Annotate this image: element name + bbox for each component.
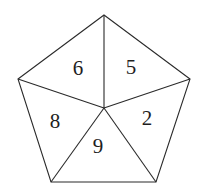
region-label-top-left: 6 (73, 56, 84, 80)
spoke-left (18, 79, 104, 108)
region-label-bottom: 9 (93, 134, 104, 158)
spoke-right (104, 79, 190, 108)
region-label-left: 8 (50, 109, 61, 133)
pentagon-diagram: 6 5 2 9 8 (0, 0, 203, 192)
region-label-right: 2 (142, 106, 153, 130)
region-label-top-right: 5 (126, 55, 137, 79)
